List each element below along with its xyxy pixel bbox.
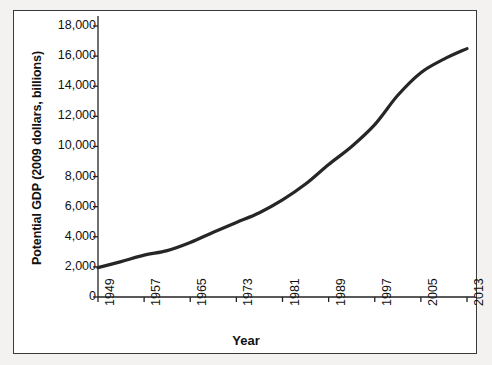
chart-axes xyxy=(93,16,475,302)
chart-series xyxy=(98,49,467,268)
chart-figure-frame: Potential GDP (2009 dollars, billions) Y… xyxy=(13,10,477,354)
chart-plot-area xyxy=(14,11,478,355)
